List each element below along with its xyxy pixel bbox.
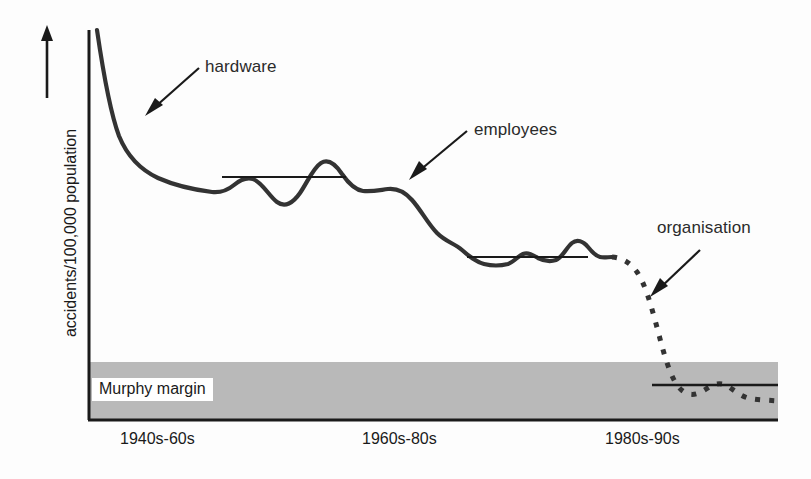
y-axis-label: accidents/100,000 population xyxy=(62,103,80,363)
hardware-annotation-arrow xyxy=(145,68,199,116)
accident-rate-chart: accidents/100,000 population hardware em… xyxy=(0,0,811,479)
annotation-label-employees: employees xyxy=(474,120,557,140)
chart-canvas xyxy=(0,0,811,479)
x-tick-label-2: 1960s-80s xyxy=(362,430,437,448)
murphy-margin-label: Murphy margin xyxy=(92,378,213,401)
accident-rate-curve-solid xyxy=(97,30,612,266)
x-tick-label-3: 1980s-90s xyxy=(605,430,680,448)
annotation-label-hardware: hardware xyxy=(205,57,277,77)
annotation-label-organisation: organisation xyxy=(657,218,751,238)
employees-annotation-arrow xyxy=(409,131,467,180)
organisation-annotation-arrow xyxy=(650,250,700,297)
x-tick-label-1: 1940s-60s xyxy=(120,430,195,448)
y-axis-direction-arrow xyxy=(41,25,53,98)
